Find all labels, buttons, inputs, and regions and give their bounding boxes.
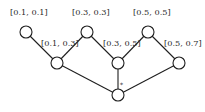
node-circle-n5 [142,26,154,38]
node-label-n4: [0.3, 0.5] [103,38,141,48]
node-label-n3: [0.3, 0.3] [72,7,110,17]
node-label-n5: [0.5, 0.5] [133,7,171,17]
node-circle-n6 [173,57,185,69]
node-circle-n4 [112,57,124,69]
diagram-svg: [0.1, 0.1][0.1, 0.3][0.3, 0.3][0.3, 0.5]… [0,0,205,112]
node-label-n1: [0.1, 0.1] [10,7,48,17]
node-circle-n3 [81,26,93,38]
asterisk-annotation: * [120,81,123,88]
edge-n2-n7 [57,63,118,95]
edge-n6-n7 [118,63,179,95]
node-label-n6: [0.5, 0.7] [164,38,202,48]
annotations-layer: * [120,81,123,88]
node-circle-n2 [51,57,63,69]
node-circle-n1 [20,26,32,38]
labels-layer: [0.1, 0.1][0.1, 0.3][0.3, 0.3][0.3, 0.5]… [10,7,202,48]
node-label-n2: [0.1, 0.3] [41,38,79,48]
lattice-diagram: [0.1, 0.1][0.1, 0.3][0.3, 0.3][0.3, 0.5]… [0,0,205,112]
node-circle-n7 [112,89,124,101]
